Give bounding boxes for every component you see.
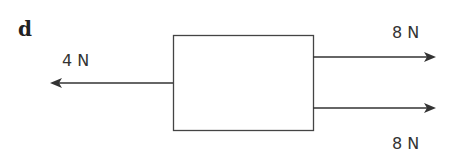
force-label-4n: 4 N bbox=[62, 53, 89, 69]
arrow-right-8n-bottom bbox=[313, 103, 436, 113]
arrow-right-8n-top bbox=[313, 52, 436, 62]
free-body-diagram bbox=[0, 0, 455, 160]
force-label-8n-bottom: 8 N bbox=[392, 136, 419, 152]
force-label-8n-top: 8 N bbox=[392, 25, 419, 41]
arrow-left-4n bbox=[50, 78, 173, 88]
object-box bbox=[174, 36, 314, 131]
